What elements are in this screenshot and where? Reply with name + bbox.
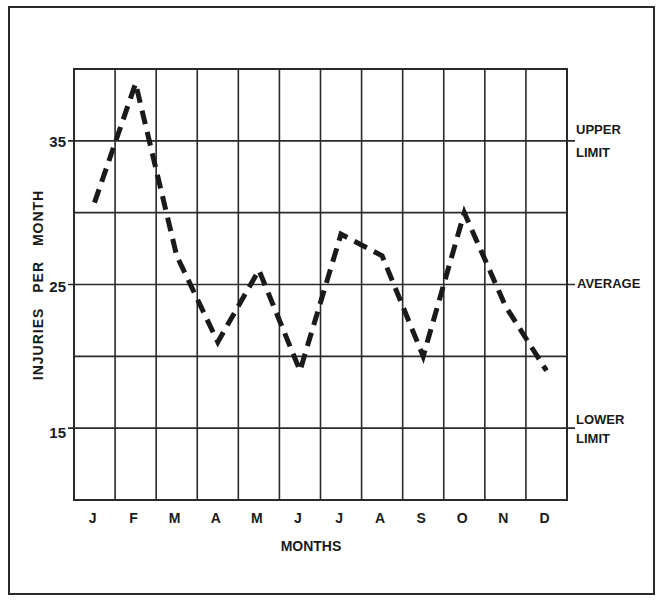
y-axis-label: INJURIES PER MONTH bbox=[30, 190, 46, 380]
month-label: N bbox=[498, 510, 508, 526]
ytick-15: 15 bbox=[49, 424, 66, 441]
month-label: M bbox=[169, 510, 181, 526]
month-label: A bbox=[211, 510, 221, 526]
x-axis-label: MONTHS bbox=[281, 538, 342, 554]
control-chart: 35 25 15 JFMAMJJASOND MONTHS INJURIES PE… bbox=[0, 0, 662, 605]
month-label: J bbox=[335, 510, 343, 526]
month-label: J bbox=[89, 510, 97, 526]
reference-line-labels: UPPER LIMIT AVERAGE LOWER LIMIT bbox=[576, 122, 641, 446]
month-label: J bbox=[294, 510, 302, 526]
upper-limit-label: UPPER bbox=[576, 122, 621, 137]
x-axis-tick-labels: JFMAMJJASOND bbox=[89, 510, 550, 526]
average-label: AVERAGE bbox=[577, 276, 641, 291]
upper-limit-label-2: LIMIT bbox=[576, 145, 610, 160]
ytick-25: 25 bbox=[49, 278, 66, 295]
y-axis-tick-labels: 35 25 15 bbox=[49, 133, 66, 441]
month-label: D bbox=[539, 510, 549, 526]
lower-limit-label: LOWER bbox=[576, 412, 625, 427]
ytick-35: 35 bbox=[49, 133, 66, 150]
month-label: F bbox=[129, 510, 138, 526]
month-label: M bbox=[251, 510, 263, 526]
month-label: A bbox=[375, 510, 385, 526]
month-label: S bbox=[417, 510, 426, 526]
month-label: O bbox=[457, 510, 468, 526]
lower-limit-label-2: LIMIT bbox=[576, 431, 610, 446]
plot-grid bbox=[68, 69, 575, 500]
